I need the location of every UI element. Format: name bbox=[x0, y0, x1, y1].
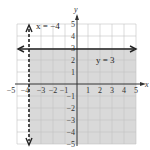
svg-text:2: 2 bbox=[71, 56, 75, 65]
svg-text:−3: −3 bbox=[37, 86, 46, 95]
svg-text:−2: −2 bbox=[66, 104, 75, 113]
svg-text:2: 2 bbox=[98, 86, 102, 95]
svg-text:−5: −5 bbox=[66, 140, 75, 149]
svg-text:3: 3 bbox=[110, 86, 114, 95]
x-axis-label: x bbox=[144, 80, 149, 89]
svg-text:1: 1 bbox=[86, 86, 90, 95]
svg-text:−3: −3 bbox=[66, 116, 75, 125]
svg-text:−4: −4 bbox=[66, 128, 75, 137]
svg-text:4: 4 bbox=[71, 32, 75, 41]
svg-text:4: 4 bbox=[122, 86, 126, 95]
y-axis-label: y bbox=[73, 5, 78, 14]
svg-text:5: 5 bbox=[134, 86, 138, 95]
x-tick-neg4: −4 bbox=[21, 86, 30, 95]
label-y-equals-3: y = 3 bbox=[96, 55, 115, 65]
svg-text:5: 5 bbox=[71, 20, 75, 29]
svg-text:−1: −1 bbox=[66, 92, 75, 101]
svg-text:−5: −5 bbox=[7, 86, 16, 95]
y-axis-arrow-icon bbox=[75, 14, 79, 20]
label-x-equals-neg4: x = −4 bbox=[36, 21, 60, 31]
inequality-graph: x y −5 −3 −2 −1 1 2 3 4 5 5 4 3 2 1 −1 −… bbox=[0, 0, 150, 150]
svg-text:1: 1 bbox=[71, 68, 75, 77]
svg-text:−2: −2 bbox=[49, 86, 58, 95]
